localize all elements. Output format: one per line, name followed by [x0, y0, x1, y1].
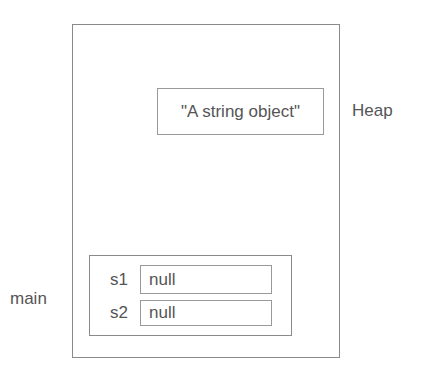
heap-label: Heap — [352, 101, 393, 121]
main-frame-label: main — [10, 289, 47, 309]
heap-string-object-value: "A string object" — [181, 102, 300, 122]
variable-s1-value: null — [149, 270, 175, 290]
variable-s1-name: s1 — [110, 270, 128, 290]
variable-s1-value-box: null — [140, 265, 272, 294]
variable-s2-value-box: null — [140, 300, 272, 326]
variable-s2-name: s2 — [110, 303, 128, 323]
variable-s2-value: null — [149, 303, 175, 323]
heap-string-object: "A string object" — [157, 88, 324, 135]
